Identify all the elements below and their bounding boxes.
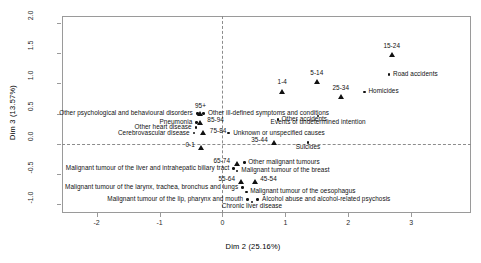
x-tick-label: 1: [265, 219, 305, 226]
data-point-triangle[interactable]: [314, 79, 320, 84]
data-point-dot[interactable]: [256, 198, 259, 201]
x-tick-label: 3: [391, 219, 431, 226]
data-point-triangle[interactable]: [198, 145, 204, 150]
data-point-triangle[interactable]: [389, 52, 395, 57]
x-tick-mark: [348, 213, 349, 217]
data-point-dot[interactable]: [232, 167, 235, 170]
data-point-dot[interactable]: [202, 112, 205, 115]
data-point-triangle[interactable]: [238, 179, 244, 184]
data-point-dot[interactable]: [241, 186, 244, 189]
y-tick-mark: [57, 53, 61, 54]
y-tick-label: 1.0: [27, 71, 34, 95]
data-point-label: Other psychological and behavioural diso…: [59, 110, 193, 116]
data-point-label: Malignant tumour of the breast: [241, 167, 329, 173]
data-point-dot[interactable]: [243, 161, 246, 164]
data-point-label: 95+: [195, 103, 206, 109]
data-point-label: Cerebrovascular disease: [118, 130, 190, 136]
data-point-label: 15-24: [383, 43, 400, 49]
data-point-triangle[interactable]: [279, 89, 285, 94]
data-point-label: 5-14: [310, 70, 323, 76]
data-point-triangle[interactable]: [234, 161, 240, 166]
y-tick-label: 0.5: [27, 101, 34, 125]
data-point-label: Malignant tumour of the liver and intrah…: [66, 165, 230, 171]
data-point-label: Events of undetermined intention: [271, 119, 366, 125]
data-point-label: Chronic liver disease: [222, 203, 282, 209]
data-point-triangle[interactable]: [271, 140, 277, 145]
y-tick-mark: [57, 23, 61, 24]
data-point-label: 0-1: [185, 142, 194, 148]
data-point-label: Homicides: [368, 88, 398, 94]
y-tick-mark: [57, 144, 61, 145]
y-tick-label: 1.5: [27, 41, 34, 65]
x-tick-mark: [411, 213, 412, 217]
x-tick-label: 2: [328, 219, 368, 226]
y-tick-mark: [57, 204, 61, 205]
y-tick-label: 2.0: [27, 11, 34, 35]
x-tick-mark: [97, 213, 98, 217]
data-point-dot[interactable]: [196, 112, 199, 115]
y-tick-label: -0.5: [27, 161, 34, 185]
x-tick-mark: [222, 213, 223, 217]
data-point-label: 55-64: [218, 176, 235, 182]
y-tick-label: -1.0: [27, 191, 34, 215]
data-point-label: Unknown or unspecified causes: [233, 130, 325, 136]
x-tick-label: -1: [140, 219, 180, 226]
y-tick-label: 0.0: [27, 131, 34, 155]
data-point-triangle[interactable]: [338, 94, 344, 99]
data-point-label: Other malignant tumours: [248, 159, 319, 165]
x-axis-title: Dim 2 (25.16%): [193, 242, 313, 251]
data-point-triangle[interactable]: [197, 120, 203, 125]
data-point-label: 25-34: [332, 85, 349, 91]
y-axis-title: Dim 3 (13.57%): [8, 73, 17, 153]
data-point-dot[interactable]: [246, 198, 249, 201]
x-tick-mark: [285, 213, 286, 217]
data-point-label: Malignant tumour of the larynx, trachea,…: [65, 184, 238, 190]
x-tick-label: -2: [77, 219, 117, 226]
data-point-triangle[interactable]: [252, 179, 258, 184]
data-point-label: 45-54: [260, 176, 277, 182]
y-tick-mark: [57, 83, 61, 84]
data-point-label: Malignant tumour of the oesophagus: [250, 188, 355, 194]
data-point-label: 85-94: [207, 117, 224, 123]
data-point-label: 35-44: [251, 137, 268, 143]
horizontal-reference-line: [62, 144, 471, 145]
data-point-dot[interactable]: [195, 121, 198, 124]
x-tick-mark: [160, 213, 161, 217]
y-tick-mark: [57, 174, 61, 175]
data-point-label: 75-84: [210, 128, 227, 134]
data-point-dot[interactable]: [245, 191, 248, 194]
data-point-label: Suicides: [296, 144, 321, 150]
data-point-label: Road accidents: [393, 71, 438, 77]
data-point-label: 1-4: [278, 79, 287, 85]
data-point-triangle[interactable]: [200, 130, 206, 135]
x-tick-label: 0: [202, 219, 242, 226]
data-point-dot[interactable]: [363, 91, 366, 94]
scatter-plot-canvas: Dim 3 (13.57%) Dim 2 (25.16%) -2-10123-1…: [0, 0, 481, 263]
